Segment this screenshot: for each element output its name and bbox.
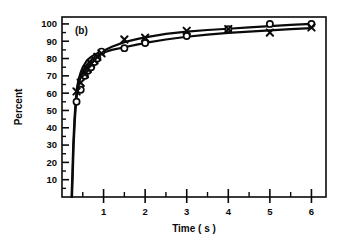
y-tick-label: 50 <box>46 105 57 116</box>
x-tick-label: 3 <box>184 206 189 217</box>
y-tick-label: 20 <box>46 157 57 168</box>
y-tick-label: 40 <box>46 122 57 133</box>
chart-canvas: 102030405060708090100 123456 (b) Time ( … <box>0 0 343 240</box>
y-tick-label: 80 <box>46 53 57 64</box>
x-tick-label: 4 <box>226 206 232 217</box>
x-tick-label: 5 <box>267 206 273 217</box>
x-tick-label: 6 <box>309 206 314 217</box>
panel-label: (b) <box>75 25 88 36</box>
y-axis-title: Percent <box>13 88 24 125</box>
axes-frame <box>62 17 326 197</box>
data-point-open-circle <box>267 21 273 27</box>
y-tick-label: 100 <box>41 18 57 29</box>
upper-fitted-curve <box>72 24 312 197</box>
y-tick-label: 60 <box>46 88 57 99</box>
x-axis-tick-labels: 123456 <box>101 206 314 217</box>
x-tick-label: 1 <box>101 206 107 217</box>
data-point-open-circle <box>73 99 79 105</box>
y-tick-label: 10 <box>46 174 57 185</box>
plot-frame <box>62 17 326 197</box>
data-point-open-circle <box>121 45 127 51</box>
lower-fitted-curve <box>72 28 311 197</box>
data-point-markers <box>73 21 314 105</box>
x-axis-title: Time ( s ) <box>172 223 216 234</box>
y-axis-tick-labels: 102030405060708090100 <box>41 18 57 185</box>
x-tick-label: 2 <box>143 206 148 217</box>
y-tick-label: 90 <box>46 36 57 47</box>
y-tick-label: 30 <box>46 139 57 150</box>
fitted-curves <box>72 24 312 197</box>
figure-panel-b: 102030405060708090100 123456 (b) Time ( … <box>0 0 343 240</box>
y-tick-label: 70 <box>46 70 57 81</box>
